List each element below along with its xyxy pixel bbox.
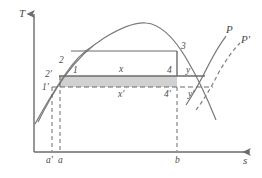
segment-y-label: y — [186, 66, 190, 76]
temperature-axis-label: T — [19, 8, 25, 19]
entropy-axis-label: s — [243, 155, 247, 166]
isobar-P-label: P — [226, 24, 233, 35]
state-4-label: 4 — [167, 66, 172, 76]
diagram-canvas — [0, 0, 262, 178]
ts-diagram-figure: T s P P' 2 2' 1 1' 3 4 4' x x' y y' a' a… — [0, 0, 262, 178]
segment-y-prime-label: y' — [188, 90, 194, 100]
segment-x-label: x — [119, 65, 123, 75]
tick-a-prime-label: a' — [46, 156, 53, 166]
segment-x-prime-label: x' — [118, 90, 124, 100]
shaded-band — [59, 76, 177, 87]
isobar-P-prime-label: P' — [241, 34, 250, 45]
state-1-prime-label: 1' — [42, 83, 49, 93]
tick-a-label: a — [58, 156, 63, 166]
state-3-label: 3 — [181, 42, 186, 52]
tick-b-label: b — [175, 156, 180, 166]
state-4-prime-label: 4' — [164, 90, 171, 100]
state-1-label: 1 — [73, 66, 78, 76]
state-2-label: 2 — [59, 56, 64, 66]
state-2-prime-label: 2' — [45, 70, 52, 80]
